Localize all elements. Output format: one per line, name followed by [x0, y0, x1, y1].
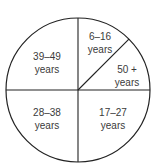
segment-label-6-16: 6–16 years	[82, 30, 118, 56]
segment-label-line2: years	[82, 43, 118, 56]
segment-label-28-38: 28–38 years	[24, 106, 70, 132]
segment-label-line2: years	[108, 76, 146, 89]
segment-label-line2: years	[90, 119, 136, 132]
segment-label-line2: years	[24, 63, 70, 76]
segment-label-50-plus: 50 + years	[108, 63, 146, 89]
segment-label-line1: 28–38	[24, 106, 70, 119]
segment-label-line1: 39–49	[24, 50, 70, 63]
segment-label-39-49: 39–49 years	[24, 50, 70, 76]
segment-label-line1: 17–27	[90, 106, 136, 119]
segment-label-line1: 50 +	[108, 63, 146, 76]
segment-label-line2: years	[24, 119, 70, 132]
segment-label-line1: 6–16	[82, 30, 118, 43]
segment-label-17-27: 17–27 years	[90, 106, 136, 132]
